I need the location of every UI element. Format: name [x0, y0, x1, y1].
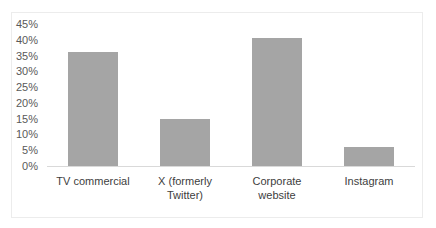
- y-tick-label: 20%: [0, 97, 38, 109]
- x-axis-line: [47, 166, 415, 167]
- y-tick-label: 10%: [0, 128, 38, 140]
- x-category-label: Corporate website: [231, 174, 323, 202]
- y-tick-label: 30%: [0, 65, 38, 77]
- x-category-label: TV commercial: [47, 174, 139, 188]
- y-tick-label: 25%: [0, 81, 38, 93]
- y-tick-label: 15%: [0, 113, 38, 125]
- y-tick-label: 45%: [0, 18, 38, 30]
- bar: [68, 52, 118, 166]
- x-category-label: Instagram: [323, 174, 415, 188]
- y-tick-label: 0%: [0, 160, 38, 172]
- y-tick-label: 5%: [0, 144, 38, 156]
- bar: [344, 147, 394, 166]
- x-category-label: X (formerly Twitter): [139, 174, 231, 202]
- y-tick-label: 40%: [0, 34, 38, 46]
- bar: [160, 119, 210, 166]
- bar: [252, 38, 302, 166]
- y-tick-label: 35%: [0, 50, 38, 62]
